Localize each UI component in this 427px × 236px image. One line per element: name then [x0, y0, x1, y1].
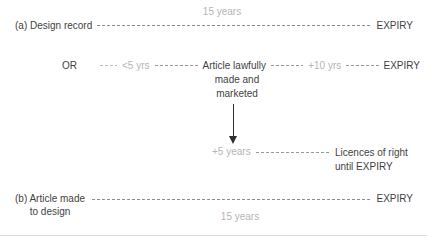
dashed-line-a [97, 25, 371, 26]
article-event-line2: made and [215, 74, 259, 85]
or-label: OR [62, 60, 77, 71]
timeline-a-label: (a) Design record [15, 20, 92, 31]
segment-lt5yrs-label: <5 yrs [122, 60, 150, 71]
expiry-label-or: EXPIRY [384, 60, 421, 71]
timeline-b-label-line1: (b) Article made [15, 192, 85, 205]
expiry-label-a: EXPIRY [377, 20, 414, 31]
dashed-line-b [92, 199, 370, 200]
licences-label-line1: Licences of right [335, 146, 425, 160]
timeline-a-row: (a) Design record EXPIRY [15, 20, 413, 31]
dashed-line-or-4 [346, 65, 378, 66]
article-event-label: Article lawfully [203, 60, 266, 71]
licences-row: +5 years Licences of right until EXPIRY [212, 146, 425, 174]
timeline-b-label: (b) Article made to design [15, 192, 85, 218]
timeline-b-row: (b) Article made to design EXPIRY [15, 192, 413, 218]
article-event-line3: marketed [216, 88, 258, 99]
licences-label: Licences of right until EXPIRY [335, 146, 425, 174]
design-right-duration-diagram: 15 years (a) Design record EXPIRY OR <5 … [0, 0, 427, 236]
duration-label-a-text: 15 years [203, 6, 241, 17]
down-arrow-line [233, 104, 234, 136]
dashed-line-or-1 [100, 65, 117, 66]
timeline-or-row: <5 yrs Article lawfully +10 yrs EXPIRY [100, 60, 420, 71]
plus5years-label: +5 years [212, 146, 251, 157]
expiry-label-b: EXPIRY [377, 193, 414, 204]
dashed-line-or-3 [271, 65, 303, 66]
licences-label-line2: until EXPIRY [335, 160, 425, 174]
segment-plus10yrs-label: +10 yrs [308, 60, 341, 71]
dashed-line-or-2 [155, 65, 198, 66]
timeline-b-label-line2: to design [15, 205, 85, 218]
dashed-line-licences [256, 152, 330, 153]
down-arrow-icon [229, 136, 237, 144]
duration-label-b-text: 15 years [221, 211, 259, 222]
